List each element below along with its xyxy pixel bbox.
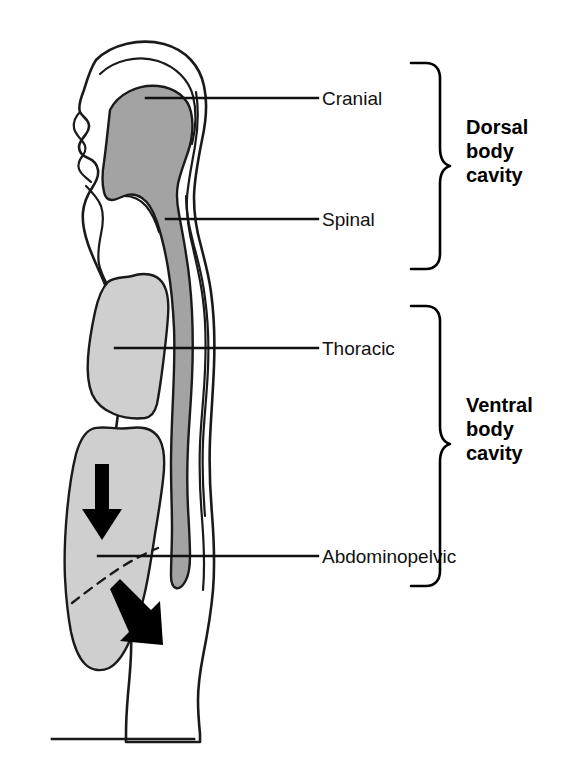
label-abdominopelvic: Abdominopelvic [322,546,456,567]
figure-root: Cranial Spinal Thoracic Abdominopelvic D… [0,0,570,773]
label-spinal: Spinal [322,209,375,230]
ventral-brace-line2: body [466,418,515,440]
ventral-brace-line1: Ventral [466,394,533,416]
dorsal-brace-line2: body [466,140,515,162]
ventral-brace-line3: cavity [466,442,524,464]
dorsal-brace-group: Dorsal body cavity [411,63,528,269]
thoracic-cavity-shape [88,274,169,418]
dorsal-brace [411,63,450,269]
ventral-body-cavity-group [65,274,169,670]
dorsal-brace-line1: Dorsal [466,116,528,138]
ventral-brace [411,306,450,586]
cavity-labels-group: Cranial Spinal Thoracic Abdominopelvic [322,88,456,567]
body-cavities-diagram: Cranial Spinal Thoracic Abdominopelvic D… [0,0,570,773]
label-thoracic: Thoracic [322,338,395,359]
ventral-brace-group: Ventral body cavity [411,306,533,586]
label-cranial: Cranial [322,88,382,109]
dorsal-brace-line3: cavity [466,164,524,186]
